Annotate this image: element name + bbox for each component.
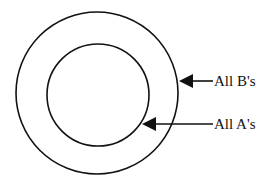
outer-circle-all-bs xyxy=(16,12,178,174)
arrow-to-outer-circle xyxy=(179,74,213,88)
inner-circle-all-as xyxy=(47,44,149,146)
venn-diagram: All B's All A's xyxy=(0,0,266,194)
label-all-as: All A's xyxy=(214,116,256,132)
label-all-bs: All B's xyxy=(214,73,256,89)
arrow-to-inner-circle xyxy=(142,117,213,131)
